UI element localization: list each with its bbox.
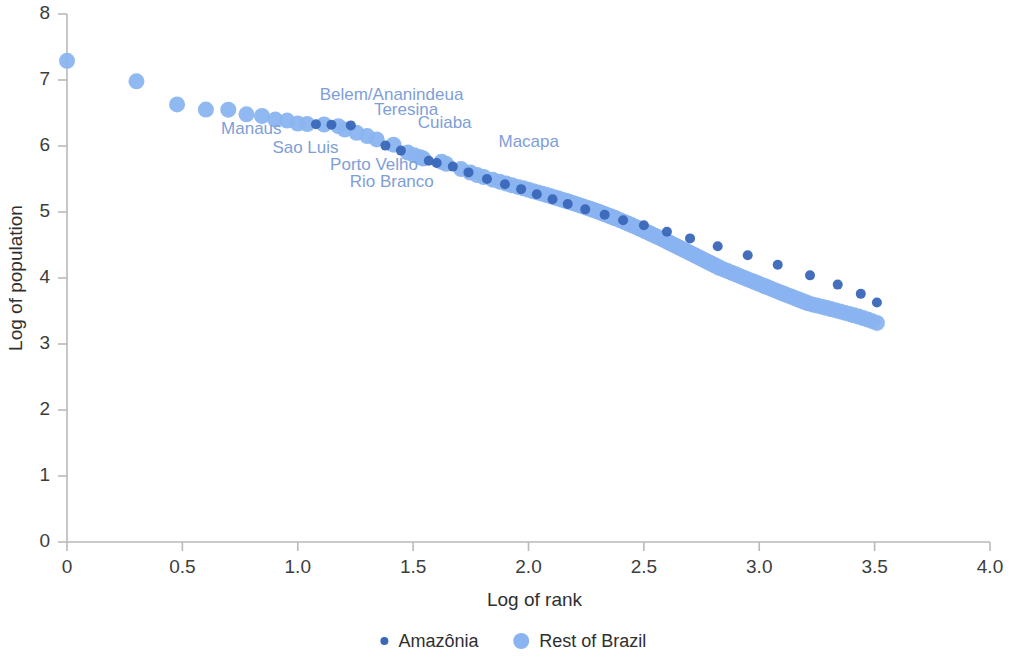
x-tick-group: 00.51.01.52.02.53.03.54.0 [62,542,1004,577]
chart-legend: AmazôniaRest of Brazil [380,631,646,651]
x-tick-label: 1.5 [400,556,426,577]
x-tick-label: 2.0 [515,556,541,577]
legend-label: Amazônia [398,631,479,651]
y-tick-group: 012345678 [39,2,67,551]
y-tick-label: 0 [39,530,50,551]
data-point [59,53,75,69]
data-point [432,158,442,168]
y-tick-label: 8 [39,2,50,23]
series-rest-of-brazil [59,53,885,331]
data-point [662,227,672,237]
data-point [833,280,843,290]
data-point [220,102,236,118]
data-point [743,250,753,260]
data-point [346,120,356,130]
data-point [685,233,695,243]
city-label: Rio Branco [350,172,434,191]
y-tick-label: 1 [39,464,50,485]
data-point [532,189,542,199]
y-tick-label: 4 [39,266,50,287]
x-tick-label: 1.0 [285,556,311,577]
y-axis: 012345678 Log of population [5,2,67,551]
data-point [500,179,510,189]
data-point [563,199,573,209]
y-tick-label: 3 [39,332,50,353]
y-axis-title: Log of population [5,205,26,351]
x-tick-label: 0.5 [169,556,195,577]
data-point [198,102,214,118]
x-axis: 00.51.01.52.02.53.03.54.0 Log of rank [62,542,1004,610]
chart-canvas: 012345678 Log of population 00.51.01.52.… [0,0,1018,660]
data-point [464,167,474,177]
data-point [169,96,185,112]
data-point [580,204,590,214]
y-tick-label: 6 [39,134,50,155]
data-point [869,315,885,331]
scatter-chart: 012345678 Log of population 00.51.01.52.… [0,0,1018,660]
data-point [856,289,866,299]
legend-swatch [513,633,529,649]
y-tick-label: 2 [39,398,50,419]
legend-label: Rest of Brazil [539,631,646,651]
x-tick-label: 0 [62,556,73,577]
data-point [326,120,336,130]
city-label: Manaus [221,119,281,138]
x-tick-label: 3.5 [861,556,887,577]
city-label: Macapa [499,132,560,151]
x-tick-label: 2.5 [631,556,657,577]
data-point [872,297,882,307]
data-point [448,162,458,172]
data-point [380,141,390,151]
city-label: Sao Luis [272,138,338,157]
data-point [805,270,815,280]
x-tick-label: 3.0 [746,556,772,577]
data-point [396,146,406,156]
legend-swatch [380,637,388,645]
y-tick-label: 7 [39,68,50,89]
data-point [600,210,610,220]
data-series-layer [59,53,885,331]
data-point [618,215,628,225]
data-point [516,184,526,194]
data-point [482,174,492,184]
data-point [548,194,558,204]
data-point [713,241,723,251]
data-point [639,220,649,230]
data-point [773,260,783,270]
x-tick-label: 4.0 [977,556,1003,577]
city-label: Cuiaba [418,113,472,132]
x-axis-title: Log of rank [487,589,583,610]
y-tick-label: 5 [39,200,50,221]
data-point [128,73,144,89]
data-point [311,119,321,129]
